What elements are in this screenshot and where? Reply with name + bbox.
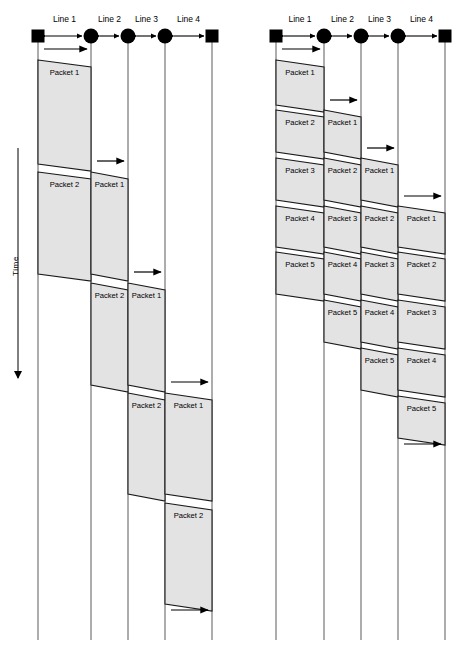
line-label-4: Line 4 bbox=[410, 14, 433, 24]
packet-label: Packet 1 bbox=[50, 68, 80, 77]
packet-block bbox=[38, 60, 91, 171]
packet-label: Packet 1 bbox=[95, 180, 125, 189]
time-axis-label: Time bbox=[11, 256, 20, 276]
diagram-small-packets: Line 1Line 2Line 3Line 4Packet 1Packet 2… bbox=[270, 14, 452, 640]
line-label-2: Line 2 bbox=[98, 14, 121, 24]
switch-node-circle bbox=[84, 29, 99, 44]
time-axis: Time bbox=[11, 148, 20, 378]
packet-label: Packet 2 bbox=[328, 166, 358, 175]
packet-label: Packet 2 bbox=[285, 118, 315, 127]
packet-label: Packet 3 bbox=[328, 214, 358, 223]
packet-label: Packet 3 bbox=[365, 260, 395, 269]
switch-node-circle bbox=[317, 29, 332, 44]
switch-node-circle bbox=[391, 29, 406, 44]
packet-switching-timing-figure: Time Line 1Line 2Line 3Line 4Packet 1Pac… bbox=[0, 0, 472, 649]
switch-node-circle bbox=[354, 29, 369, 44]
switch-node-circle bbox=[121, 29, 136, 44]
packet-label: Packet 5 bbox=[285, 260, 315, 269]
packet-label: Packet 1 bbox=[407, 214, 437, 223]
line-label-3: Line 3 bbox=[135, 14, 158, 24]
packet-label: Packet 3 bbox=[285, 166, 315, 175]
host-node-square bbox=[439, 30, 452, 43]
packet-label: Packet 5 bbox=[328, 308, 358, 317]
packet-label: Packet 5 bbox=[407, 404, 437, 413]
line-label-1: Line 1 bbox=[53, 14, 76, 24]
packet-label: Packet 2 bbox=[174, 511, 204, 520]
line-label-2: Line 2 bbox=[331, 14, 354, 24]
packet-label: Packet 1 bbox=[328, 118, 358, 127]
packet-label: Packet 5 bbox=[365, 356, 395, 365]
host-node-square bbox=[270, 30, 283, 43]
packet-label: Packet 1 bbox=[174, 401, 204, 410]
diagram-large-packets: Line 1Line 2Line 3Line 4Packet 1Packet 2… bbox=[32, 14, 219, 640]
line-label-4: Line 4 bbox=[177, 14, 200, 24]
packet-label: Packet 2 bbox=[132, 401, 162, 410]
packet-label: Packet 1 bbox=[132, 291, 162, 300]
line-label-3: Line 3 bbox=[368, 14, 391, 24]
packet-label: Packet 2 bbox=[365, 214, 395, 223]
host-node-square bbox=[206, 30, 219, 43]
packet-label: Packet 4 bbox=[285, 214, 315, 223]
packet-label: Packet 3 bbox=[407, 308, 437, 317]
packet-label: Packet 2 bbox=[407, 260, 437, 269]
line-label-1: Line 1 bbox=[288, 14, 311, 24]
packet-label: Packet 1 bbox=[285, 68, 315, 77]
packet-label: Packet 4 bbox=[365, 308, 395, 317]
packet-label: Packet 2 bbox=[50, 180, 80, 189]
switch-node-circle bbox=[158, 29, 173, 44]
packet-label: Packet 4 bbox=[407, 356, 437, 365]
packet-label: Packet 4 bbox=[328, 260, 358, 269]
packet-label: Packet 1 bbox=[365, 166, 395, 175]
diagram-canvas: Time Line 1Line 2Line 3Line 4Packet 1Pac… bbox=[0, 0, 472, 649]
packet-label: Packet 2 bbox=[95, 291, 125, 300]
host-node-square bbox=[32, 30, 45, 43]
